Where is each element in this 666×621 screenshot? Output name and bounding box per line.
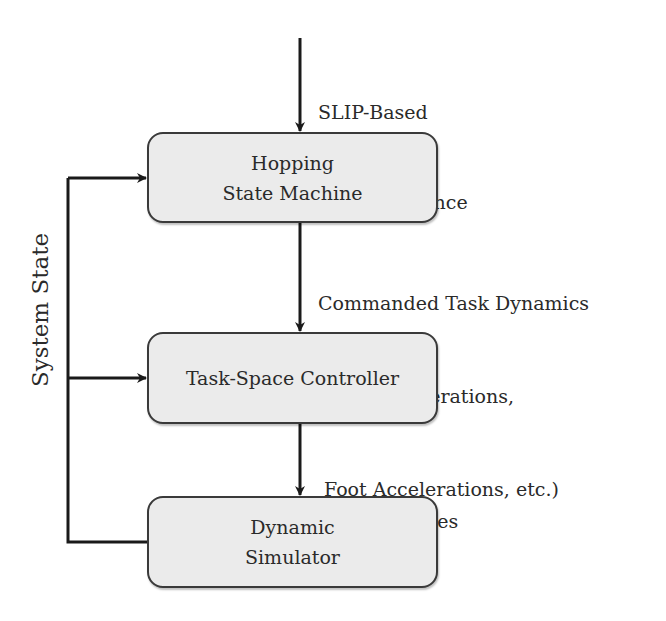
- block-label-line-2: Simulator: [245, 542, 340, 572]
- block-task-space-controller: Task-Space Controller: [147, 332, 438, 424]
- edge-label-line-1: Commanded Task Dynamics: [318, 288, 589, 319]
- block-label-line-1: Hopping: [251, 148, 334, 178]
- control-architecture-diagram: SLIP-Based CoM Reference Hopping State M…: [0, 0, 666, 621]
- system-state-label: System State: [25, 230, 55, 390]
- feedback-line: [68, 178, 147, 542]
- block-hopping-state-machine: Hopping State Machine: [147, 132, 438, 223]
- block-label-line-1: Task-Space Controller: [186, 363, 399, 393]
- block-dynamic-simulator: Dynamic Simulator: [147, 496, 438, 588]
- block-label-line-2: State Machine: [222, 178, 362, 208]
- input-label-line-1: SLIP-Based: [318, 97, 468, 127]
- block-label-line-1: Dynamic: [250, 512, 334, 542]
